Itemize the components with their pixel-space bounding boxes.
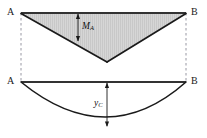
- deflection-subscript: C: [98, 101, 102, 108]
- bending-moment-and-deflection-figure: A B A B MA yC: [0, 0, 207, 138]
- deflection-dimension-arrowhead-bottom: [105, 122, 109, 128]
- figure-canvas: [0, 0, 207, 138]
- support-label-a-bottom: A: [7, 76, 14, 86]
- deflection-curve-path: [21, 82, 186, 117]
- support-label-b-bottom: B: [191, 76, 198, 86]
- moment-quantity-label: MA: [82, 22, 94, 32]
- support-label-b-top: B: [191, 7, 198, 17]
- moment-diagram-shaded-area: [21, 13, 186, 62]
- moment-subscript: A: [90, 24, 94, 31]
- deflection-dimension-arrowhead-top: [105, 83, 109, 89]
- support-label-a-top: A: [7, 7, 14, 17]
- deflection-quantity-label: yC: [94, 99, 103, 109]
- moment-symbol: M: [82, 21, 90, 31]
